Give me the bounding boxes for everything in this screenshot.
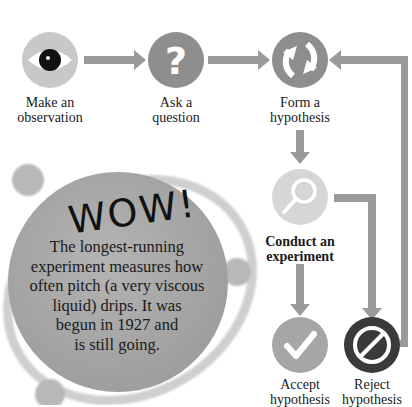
wow-text-line: The longest-running <box>22 237 212 257</box>
label-line: Ask a <box>121 95 231 110</box>
step-accept-icon <box>272 317 328 373</box>
wow-fact-text: The longest-running experiment measures … <box>22 237 212 354</box>
step-reject-icon <box>344 317 400 373</box>
step-experiment-icon <box>272 169 328 225</box>
step-observe-label: Make an observation <box>0 95 105 125</box>
wow-text-line: liquid) drips. It was <box>22 296 212 316</box>
label-line: Reject <box>317 377 412 392</box>
label-line: Make an <box>0 95 105 110</box>
step-hypothesis-icon <box>272 32 328 88</box>
step-question-label: Ask a question <box>121 95 231 125</box>
step-observe-icon <box>22 32 78 88</box>
label-line: question <box>121 110 231 125</box>
wow-text-line: is still going. <box>22 335 212 355</box>
label-line: hypothesis <box>317 392 412 407</box>
label-line: Form a <box>245 95 355 110</box>
wow-text-line: begun in 1927 and <box>22 315 212 335</box>
wow-text-line: often pitch (a very viscous <box>22 276 212 296</box>
label-line: experiment <box>245 249 355 264</box>
step-hypothesis-label: Form a hypothesis <box>245 95 355 125</box>
question-mark-icon: ? <box>165 39 187 83</box>
label-line: hypothesis <box>245 110 355 125</box>
step-experiment-label: Conduct an experiment <box>245 234 355 264</box>
step-reject-label: Reject hypothesis <box>317 377 412 407</box>
label-line: Conduct an <box>245 234 355 249</box>
label-line: observation <box>0 110 105 125</box>
step-question-icon: ? <box>148 32 204 88</box>
wow-text-line: experiment measures how <box>22 257 212 277</box>
